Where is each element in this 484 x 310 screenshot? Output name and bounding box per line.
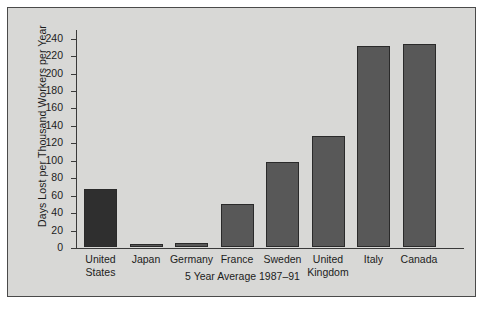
y-axis-tick: 240 [71, 39, 77, 40]
bar-united-states [84, 189, 117, 247]
y-axis-tick-label: 80 [51, 171, 63, 184]
y-axis-tick-label: 120 [45, 136, 63, 149]
y-axis-tick-label: 60 [51, 189, 63, 202]
y-axis-tick-label: 100 [45, 154, 63, 167]
bar-germany [175, 243, 208, 247]
bar-italy [357, 46, 390, 247]
y-axis-tick: 40 [71, 213, 77, 214]
y-axis-tick: 60 [71, 196, 77, 197]
y-axis-tick: 160 [71, 108, 77, 109]
x-axis-label-canada: Canada [388, 253, 450, 266]
y-axis-tick-label: 140 [45, 119, 63, 132]
y-axis-tick-label: 240 [45, 32, 63, 45]
y-axis-tick-label: 200 [45, 67, 63, 80]
bar-japan [130, 244, 163, 247]
x-axis-line [76, 248, 464, 249]
y-axis-tick: 120 [71, 143, 77, 144]
y-axis-tick-label: 220 [45, 49, 63, 62]
bar-united-kingdom [312, 136, 345, 247]
y-axis-tick-label: 40 [51, 206, 63, 219]
bar-canada [403, 44, 436, 247]
y-axis-tick: 180 [71, 91, 77, 92]
y-axis-tick: 140 [71, 126, 77, 127]
y-axis-tick-label: 20 [51, 224, 63, 237]
plot-area: 020406080100120140160180200220240 United… [76, 30, 464, 248]
bar-sweden [266, 162, 299, 247]
chart-caption: 5 Year Average 1987–91 [8, 270, 477, 282]
y-axis-tick-label: 0 [57, 241, 63, 254]
bar-france [221, 204, 254, 247]
y-axis-tick: 0 [71, 248, 77, 249]
chart-figure-frame: Days Lost per Thousand Workers per Year … [7, 7, 476, 297]
y-axis-tick: 200 [71, 74, 77, 75]
y-axis-tick-label: 160 [45, 101, 63, 114]
x-axis-label-line: Canada [388, 253, 450, 266]
y-axis-tick-label: 180 [45, 84, 63, 97]
y-axis-tick: 220 [71, 56, 77, 57]
y-axis-line [76, 30, 77, 249]
y-axis-tick: 20 [71, 231, 77, 232]
y-axis-tick: 100 [71, 161, 77, 162]
y-axis-tick: 80 [71, 178, 77, 179]
